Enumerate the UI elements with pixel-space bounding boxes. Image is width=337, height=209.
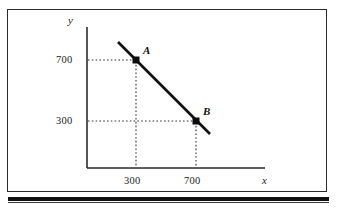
data-point-b-marker <box>193 118 200 125</box>
data-point-a-label: A <box>143 45 150 56</box>
plot-area <box>0 0 337 209</box>
x-axis-label: x <box>262 175 267 186</box>
y-axis-label: y <box>68 15 73 26</box>
x-tick-label-300: 300 <box>124 176 140 187</box>
data-point-a-marker <box>133 57 140 64</box>
y-tick-label-300: 300 <box>56 116 72 127</box>
figure-root: y x 700 300 300 700 A B <box>0 0 337 209</box>
bottom-rule-secondary <box>8 202 329 203</box>
x-tick-label-700: 700 <box>184 176 200 187</box>
bottom-rule <box>8 197 329 201</box>
data-point-b-label: B <box>203 106 210 117</box>
y-tick-label-700: 700 <box>56 55 72 66</box>
